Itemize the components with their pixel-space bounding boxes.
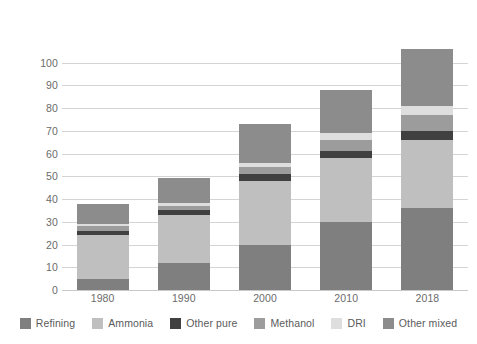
bar-group-2000 [224, 40, 305, 290]
legend-swatch-icon [331, 318, 342, 329]
legend-swatch-icon [254, 318, 265, 329]
x-axis-tick-labels: 19801990200020102018 [62, 292, 468, 310]
bar-segment-2010-other-pure[interactable] [320, 151, 372, 158]
bar-stack-1990[interactable] [158, 178, 210, 290]
bar-segment-2000-ammonia[interactable] [239, 181, 291, 245]
y-tick-label-10: 10 [32, 261, 58, 273]
legend-label: Ammonia [108, 317, 153, 329]
bar-segment-2018-other-mixed[interactable] [401, 49, 453, 106]
y-axis-tick-labels: 0102030405060708090100 [28, 40, 58, 290]
bars-layer [62, 40, 468, 290]
y-tick-label-70: 70 [32, 125, 58, 137]
bar-segment-1980-ammonia[interactable] [77, 235, 129, 278]
bar-group-2018 [387, 40, 468, 290]
bar-segment-2000-other-mixed[interactable] [239, 124, 291, 163]
bar-segment-2000-refining[interactable] [239, 245, 291, 290]
legend-swatch-icon [170, 318, 181, 329]
bar-group-1990 [143, 40, 224, 290]
bar-group-1980 [62, 40, 143, 290]
bar-segment-2010-other-mixed[interactable] [320, 90, 372, 133]
bar-stack-2000[interactable] [239, 124, 291, 290]
bar-segment-1990-ammonia[interactable] [158, 215, 210, 263]
legend-item-other-pure[interactable]: Other pure [170, 317, 237, 329]
gridline-0 [62, 290, 468, 291]
legend-swatch-icon [92, 318, 103, 329]
bar-segment-2018-dri[interactable] [401, 106, 453, 115]
y-tick-label-40: 40 [32, 193, 58, 205]
legend-item-ammonia[interactable]: Ammonia [92, 317, 153, 329]
bar-segment-2000-other-pure[interactable] [239, 174, 291, 181]
bar-segment-1980-refining[interactable] [77, 279, 129, 290]
legend-label: Other mixed [399, 317, 457, 329]
bar-segment-1980-other-mixed[interactable] [77, 204, 129, 224]
legend-item-methanol[interactable]: Methanol [254, 317, 314, 329]
legend-item-dri[interactable]: DRI [331, 317, 365, 329]
bar-stack-2010[interactable] [320, 90, 372, 290]
x-tick-label-1980: 1980 [62, 292, 143, 310]
bar-group-2010 [306, 40, 387, 290]
legend-swatch-icon [383, 318, 394, 329]
x-tick-label-2010: 2010 [306, 292, 387, 310]
legend-item-other-mixed[interactable]: Other mixed [383, 317, 457, 329]
y-tick-label-50: 50 [32, 170, 58, 182]
bar-segment-2010-methanol[interactable] [320, 140, 372, 151]
bar-segment-1990-refining[interactable] [158, 263, 210, 290]
x-tick-label-1990: 1990 [143, 292, 224, 310]
y-tick-label-80: 80 [32, 102, 58, 114]
legend-label: DRI [347, 317, 365, 329]
bar-segment-2000-methanol[interactable] [239, 167, 291, 174]
legend-item-refining[interactable]: Refining [20, 317, 75, 329]
x-tick-label-2018: 2018 [387, 292, 468, 310]
bar-segment-2010-refining[interactable] [320, 222, 372, 290]
bar-segment-2010-dri[interactable] [320, 133, 372, 140]
bar-segment-2018-methanol[interactable] [401, 115, 453, 131]
legend-label: Other pure [186, 317, 237, 329]
y-tick-label-90: 90 [32, 79, 58, 91]
bar-segment-2018-refining[interactable] [401, 208, 453, 290]
bar-segment-2010-ammonia[interactable] [320, 158, 372, 222]
y-tick-label-30: 30 [32, 216, 58, 228]
legend-label: Refining [36, 317, 75, 329]
chart-legend: RefiningAmmoniaOther pureMethanolDRIOthe… [0, 313, 477, 333]
legend-label: Methanol [270, 317, 314, 329]
bar-segment-2018-other-pure[interactable] [401, 131, 453, 140]
legend-swatch-icon [20, 318, 31, 329]
y-tick-label-20: 20 [32, 239, 58, 251]
bar-stack-2018[interactable] [401, 49, 453, 290]
x-tick-label-2000: 2000 [224, 292, 305, 310]
stacked-bar-chart: Million tonnes of hydrogen 0102030405060… [0, 0, 477, 344]
bar-segment-2018-ammonia[interactable] [401, 140, 453, 208]
y-tick-label-100: 100 [32, 57, 58, 69]
bar-stack-1980[interactable] [77, 204, 129, 290]
y-tick-label-60: 60 [32, 148, 58, 160]
y-tick-label-0: 0 [32, 284, 58, 296]
bar-segment-1990-other-mixed[interactable] [158, 178, 210, 203]
